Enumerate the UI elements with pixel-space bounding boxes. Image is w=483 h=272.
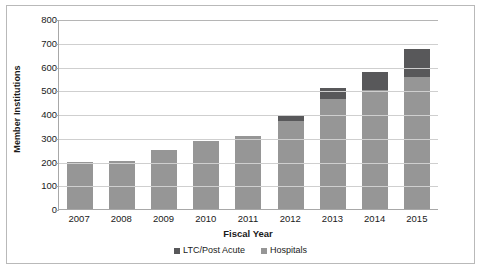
legend-label: Hospitals xyxy=(270,246,307,255)
x-axis-title: Fiscal Year xyxy=(58,228,438,239)
segment-hospitals-2015[interactable] xyxy=(404,77,430,209)
y-axis-tick-400: 400 xyxy=(25,110,57,120)
y-axis-title: Member Institutions xyxy=(9,26,25,191)
legend-swatch-icon xyxy=(261,248,267,254)
legend-swatch-icon xyxy=(174,248,180,254)
segment-hospitals-2010[interactable] xyxy=(193,141,219,209)
x-axis-tick-2010: 2010 xyxy=(185,212,227,226)
gridline-500 xyxy=(59,91,438,92)
stacked-bar-chart: Member Institutions 80070060050040030020… xyxy=(7,6,474,263)
y-tickmark-500 xyxy=(55,91,59,92)
segment-hospitals-2012[interactable] xyxy=(278,121,304,209)
legend-item-hospitals[interactable]: Hospitals xyxy=(261,246,307,255)
x-axis-tick-2008: 2008 xyxy=(100,212,142,226)
x-axis-tick-2013: 2013 xyxy=(311,212,353,226)
segment-ltc-2014[interactable] xyxy=(362,72,388,91)
x-axis-tick-2014: 2014 xyxy=(354,212,396,226)
gridline-800 xyxy=(59,20,438,21)
chart-frame: Member Institutions 80070060050040030020… xyxy=(6,5,475,264)
segment-hospitals-2011[interactable] xyxy=(235,136,261,209)
x-axis-tick-2007: 2007 xyxy=(58,212,100,226)
stacked-bar-2009[interactable] xyxy=(151,150,177,209)
y-tickmark-0 xyxy=(55,210,59,211)
gridline-700 xyxy=(59,44,438,45)
gridline-600 xyxy=(59,68,438,69)
plot-area xyxy=(58,20,438,210)
gridline-200 xyxy=(59,163,438,164)
y-axis-tick-300: 300 xyxy=(25,134,57,144)
segment-ltc-2013[interactable] xyxy=(320,88,346,99)
stacked-bar-2013[interactable] xyxy=(320,88,346,209)
y-axis-tick-labels: 8007006005004003002001000 xyxy=(25,15,57,215)
gridline-400 xyxy=(59,115,438,116)
gridline-100 xyxy=(59,186,438,187)
y-tickmark-100 xyxy=(55,186,59,187)
x-axis-tick-2011: 2011 xyxy=(227,212,269,226)
y-tickmark-300 xyxy=(55,139,59,140)
stacked-bar-2014[interactable] xyxy=(362,72,388,209)
x-axis-tick-2009: 2009 xyxy=(142,212,184,226)
segment-ltc-2015[interactable] xyxy=(404,49,430,78)
y-axis-tick-500: 500 xyxy=(25,87,57,97)
y-tickmark-600 xyxy=(55,68,59,69)
legend-item-ltc-post-acute[interactable]: LTC/Post Acute xyxy=(174,246,245,255)
y-axis-tick-100: 100 xyxy=(25,182,57,192)
y-tickmark-700 xyxy=(55,44,59,45)
y-tickmark-800 xyxy=(55,20,59,21)
y-axis-tick-0: 0 xyxy=(25,205,57,215)
stacked-bar-2015[interactable] xyxy=(404,49,430,209)
stacked-bar-2011[interactable] xyxy=(235,136,261,209)
stacked-bar-2008[interactable] xyxy=(109,161,135,209)
segment-hospitals-2009[interactable] xyxy=(151,150,177,209)
x-axis-tick-labels: 200720082009201020112012201320142015 xyxy=(58,212,438,226)
y-tickmark-400 xyxy=(55,115,59,116)
chart-legend: LTC/Post AcuteHospitals xyxy=(7,246,474,255)
segment-hospitals-2008[interactable] xyxy=(109,161,135,209)
y-axis-tick-600: 600 xyxy=(25,63,57,73)
y-tickmark-200 xyxy=(55,163,59,164)
segment-hospitals-2014[interactable] xyxy=(362,90,388,209)
y-axis-title-text: Member Institutions xyxy=(12,65,22,152)
gridline-300 xyxy=(59,139,438,140)
x-axis-tick-2015: 2015 xyxy=(396,212,438,226)
y-axis-tick-200: 200 xyxy=(25,158,57,168)
y-axis-tick-800: 800 xyxy=(25,15,57,25)
x-axis-tick-2012: 2012 xyxy=(269,212,311,226)
stacked-bar-2010[interactable] xyxy=(193,141,219,209)
y-axis-tick-700: 700 xyxy=(25,39,57,49)
legend-label: LTC/Post Acute xyxy=(183,246,245,255)
